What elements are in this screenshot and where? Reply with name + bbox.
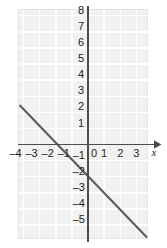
x-tick-label-2: 2 (117, 147, 123, 159)
coordinate-plane-figure: 8 7 6 5 4 3 2 1 –1 –2 –3 –4 –5 0 –4 –3 –… (0, 0, 167, 248)
y-tick-label-neg5: –5 (73, 213, 85, 225)
y-tick-label-6: 6 (78, 36, 84, 48)
x-tick-label-neg4: –4 (10, 147, 22, 159)
graph-canvas: 8 7 6 5 4 3 2 1 –1 –2 –3 –4 –5 0 –4 –3 –… (0, 0, 167, 248)
y-tick-label-3: 3 (78, 84, 84, 96)
x-tick-label-neg3: –3 (26, 147, 38, 159)
y-tick-label-1: 1 (78, 117, 84, 129)
origin-label: 0 (91, 147, 97, 159)
y-tick-label-neg2: –2 (73, 165, 85, 177)
y-tick-label-8: 8 (78, 4, 84, 16)
y-tick-label-5: 5 (78, 52, 84, 64)
y-tick-label-neg4: –4 (73, 197, 85, 209)
x-tick-label-1: 1 (101, 147, 107, 159)
x-tick-label-3: 3 (133, 147, 139, 159)
y-tick-label-7: 7 (78, 20, 84, 32)
y-tick-label-neg3: –3 (73, 181, 85, 193)
x-tick-label-neg1: –1 (58, 147, 70, 159)
y-tick-label-2: 2 (78, 100, 84, 112)
x-tick-label-neg2: –2 (42, 147, 54, 159)
y-tick-label-neg1: –1 (73, 149, 85, 161)
x-axis-label: x (151, 146, 157, 158)
y-tick-label-4: 4 (78, 68, 84, 80)
